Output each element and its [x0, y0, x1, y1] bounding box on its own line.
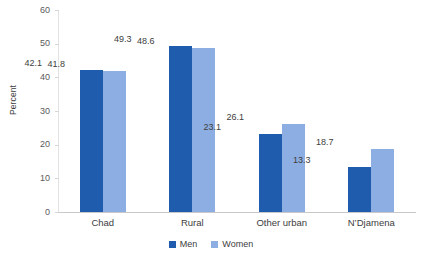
bar-men-1[interactable] — [169, 46, 192, 212]
legend-label: Men — [180, 240, 198, 249]
bar-group — [259, 10, 305, 212]
bar-value-label: 26.1 — [223, 113, 248, 122]
bar-value-label: 13.3 — [289, 156, 314, 165]
y-axis-tick-mark — [55, 44, 59, 45]
y-axis-tick-label: 50 — [28, 39, 50, 48]
bar-value-label: 42.1 — [21, 59, 46, 68]
y-axis-tick-label: 0 — [28, 208, 50, 217]
x-axis-tick-label: N’Djamena — [327, 218, 417, 228]
bar-value-label: 23.1 — [200, 123, 225, 132]
bar-chart: Percent 0102030405060 MenWomen 42.141.8C… — [0, 0, 422, 261]
x-axis-tick-label: Rural — [148, 218, 238, 228]
legend-swatch-icon — [169, 241, 176, 248]
bar-group — [348, 10, 394, 212]
chart-legend: MenWomen — [0, 240, 422, 249]
y-axis-tick-label: 40 — [28, 73, 50, 82]
legend-swatch-icon — [211, 241, 218, 248]
legend-item[interactable]: Women — [211, 240, 253, 249]
x-axis-tick-label: Chad — [58, 218, 148, 228]
y-axis-tick-mark — [55, 212, 59, 213]
bar-group — [169, 10, 215, 212]
y-axis-tick-mark — [55, 77, 59, 78]
y-axis-tick-labels: 0102030405060 — [26, 0, 50, 261]
bar-men-3[interactable] — [348, 167, 371, 212]
bar-women-3[interactable] — [371, 149, 394, 212]
y-axis-tick-mark — [55, 178, 59, 179]
x-axis-line — [58, 212, 416, 213]
bar-value-label: 18.7 — [312, 138, 337, 147]
bar-value-label: 41.8 — [44, 60, 69, 69]
bar-women-2[interactable] — [282, 124, 305, 212]
legend-label: Women — [222, 240, 253, 249]
y-axis-tick-label: 30 — [28, 107, 50, 116]
y-axis-tick-mark — [55, 145, 59, 146]
y-axis-tick-mark — [55, 10, 59, 11]
y-axis-tick-mark — [55, 111, 59, 112]
bar-value-label: 49.3 — [110, 35, 135, 44]
y-axis-tick-label: 20 — [28, 140, 50, 149]
y-axis-title: Percent — [8, 65, 18, 135]
y-axis-tick-label: 60 — [28, 6, 50, 15]
y-axis-tick-label: 10 — [28, 174, 50, 183]
bar-women-0[interactable] — [103, 71, 126, 212]
bar-value-label: 48.6 — [133, 37, 158, 46]
bar-men-2[interactable] — [259, 134, 282, 212]
x-axis-tick-label: Other urban — [237, 218, 327, 228]
legend-item[interactable]: Men — [169, 240, 198, 249]
bar-men-0[interactable] — [80, 70, 103, 212]
